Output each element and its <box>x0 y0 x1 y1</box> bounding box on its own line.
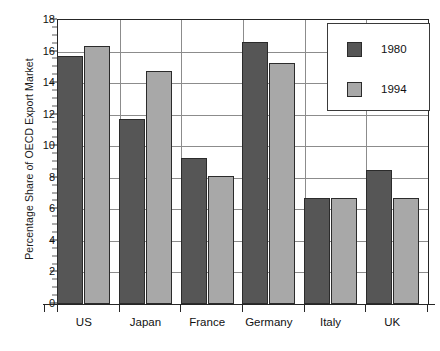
x-axis-tick <box>44 304 45 312</box>
legend-item-1994: 1994 <box>328 78 429 100</box>
x-axis-tick <box>119 304 120 312</box>
bar-uk-1980 <box>366 170 392 304</box>
y-axis-tick-label: 16 <box>31 45 55 57</box>
y-axis-tick-label: 4 <box>31 234 55 246</box>
x-axis-tick <box>180 304 181 312</box>
bar-italy-1980 <box>304 198 330 304</box>
bar-chart: Percentage Share of OECD Export Market 0… <box>0 0 440 351</box>
x-axis-tick <box>242 304 243 312</box>
x-axis-label-uk: UK <box>352 316 432 328</box>
x-axis-tick <box>427 304 428 312</box>
bar-germany-1994 <box>269 63 295 304</box>
bar-japan-1994 <box>146 71 172 305</box>
y-axis-tick-label: 12 <box>31 108 55 120</box>
legend-label-1994: 1994 <box>381 83 407 95</box>
bar-france-1980 <box>181 158 207 304</box>
bar-uk-1994 <box>393 198 419 305</box>
y-axis-title: Percentage Share of OECD Export Market <box>23 19 43 299</box>
y-axis-tick-label: 0 <box>31 297 55 309</box>
legend-swatch-1980 <box>347 42 362 57</box>
x-axis-tick <box>304 304 305 312</box>
x-axis-tick <box>57 304 58 312</box>
chart-legend: 19801994 <box>327 23 430 111</box>
legend-label-1980: 1980 <box>381 43 407 55</box>
x-axis-tick <box>365 304 366 312</box>
bar-us-1994 <box>84 46 110 304</box>
bar-germany-1980 <box>242 42 268 304</box>
bar-france-1994 <box>208 176 234 304</box>
bar-japan-1980 <box>119 119 145 304</box>
y-axis-tick-label: 6 <box>31 202 55 214</box>
y-axis-tick-label: 2 <box>31 265 55 277</box>
bar-italy-1994 <box>331 198 357 304</box>
y-axis-tick-label: 14 <box>31 76 55 88</box>
y-axis-tick-label: 18 <box>31 13 55 25</box>
bar-us-1980 <box>57 56 83 304</box>
y-axis-tick-label: 8 <box>31 171 55 183</box>
y-axis-tick-label: 10 <box>31 139 55 151</box>
legend-swatch-1994 <box>347 82 362 97</box>
legend-item-1980: 1980 <box>328 38 429 60</box>
x-axis-line <box>43 304 435 305</box>
